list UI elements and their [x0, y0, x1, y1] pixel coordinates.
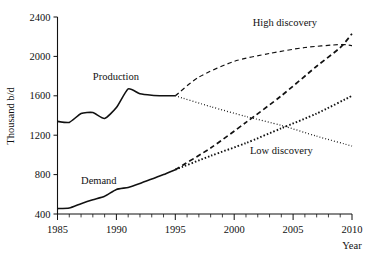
y-tick-label: 400 [35, 209, 51, 220]
y-axis-title: Thousand b/d [5, 87, 16, 145]
y-axis-ticks [54, 17, 58, 214]
x-tick-label: 1990 [106, 224, 127, 235]
x-tick-label: 2000 [224, 224, 245, 235]
chart-container: 4008001200160020002400 19851990199520002… [0, 0, 366, 262]
x-tick-label: 1995 [165, 224, 186, 235]
x-axis-title: Year [342, 240, 362, 251]
y-tick-label: 1200 [30, 130, 51, 141]
series-line [175, 96, 352, 146]
annotation-demand: Demand [81, 175, 117, 186]
y-tick-label: 800 [35, 169, 51, 180]
y-tick-label: 2000 [30, 51, 51, 62]
x-tick-label: 1985 [47, 224, 68, 235]
y-tick-label: 1600 [30, 90, 51, 101]
oil-production-demand-chart: 4008001200160020002400 19851990199520002… [0, 0, 366, 262]
series-line [58, 89, 176, 123]
x-axis-major-ticks [58, 214, 353, 220]
annotation-high-discovery: High discovery [253, 17, 318, 28]
x-tick-label: 2010 [342, 224, 363, 235]
series-line [175, 96, 352, 170]
annotation-low-discovery: Low discovery [250, 145, 313, 156]
annotation-production: Production [93, 71, 140, 82]
x-tick-label: 2005 [283, 224, 304, 235]
y-tick-label: 2400 [30, 12, 51, 23]
x-axis-tick-labels: 198519901995200020052010 [47, 224, 363, 235]
series-line [175, 45, 352, 96]
y-axis-tick-labels: 4008001200160020002400 [30, 12, 51, 220]
